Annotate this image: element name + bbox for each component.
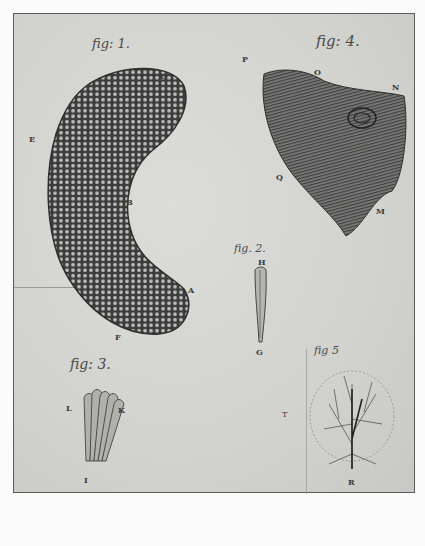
fig2-label-h: H [258,257,266,267]
fig1-label-c: C [159,116,165,126]
fig2-caption: fig. 2. [234,242,266,255]
fig3-label-i: I [84,475,88,485]
fig1-label-f: F [115,332,121,342]
fig4-label-p: P [242,54,248,64]
fig2-label-g: G [256,347,263,357]
fig1-label-b: B [126,197,133,207]
fig1-honeycomb-coral [34,64,209,344]
fig4-label-m: M [376,206,385,216]
fig4-label-q: Q [276,172,283,182]
fig4-label-n: N [392,82,399,92]
engraving-plate: fig: 1. D C E B A F fig: 4. P O N Q M fi… [13,13,415,493]
fig1-caption: fig: 1. [92,36,130,51]
fig5-label-t: T [282,410,287,419]
fig1-label-a: A [188,285,194,295]
fig3-label-k: K [118,405,125,415]
fig4-coral-mass [254,66,414,246]
fig3-polyp-cluster [74,386,134,466]
fig5-caption: fig 5 [314,344,339,357]
fig5-branching-coral [304,364,399,474]
fig4-label-o: O [314,67,321,77]
fig1-label-d: D [160,71,167,81]
fig5-label-r: R [348,477,355,487]
fig3-label-l: L [66,403,72,413]
fig1-label-e: E [29,134,35,144]
fig2-single-polyp [252,266,272,346]
fig4-caption: fig: 4. [316,32,360,50]
fig3-caption: fig: 3. [70,356,111,372]
